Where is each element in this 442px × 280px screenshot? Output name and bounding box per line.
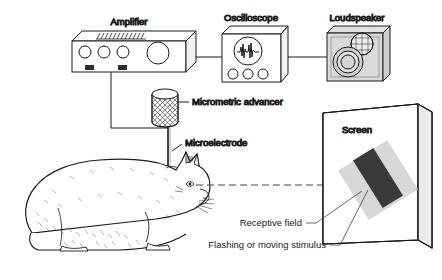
amplifier-knob-2[interactable]	[98, 46, 110, 58]
amplifier-jack-2[interactable]	[118, 65, 127, 70]
screen-label: Screen	[342, 124, 372, 135]
microelectrode	[168, 126, 170, 172]
oscilloscope-device	[222, 26, 288, 82]
microelectrode-leader	[172, 144, 182, 151]
oscilloscope-label: Oscilloscope	[224, 12, 278, 23]
cat-illustration	[26, 152, 214, 251]
amplifier-knob-1[interactable]	[79, 46, 91, 58]
figure-canvas: Amplifier Oscilloscope	[0, 0, 442, 280]
loudspeaker-woofer	[333, 47, 363, 77]
oscilloscope-knob-2[interactable]	[243, 69, 253, 79]
setup-diagram: Amplifier Oscilloscope	[0, 0, 442, 280]
stimulus-label: Flashing or moving stimulus	[208, 239, 326, 250]
loudspeaker-label: Loudspeaker	[330, 12, 385, 23]
amplifier-device	[72, 31, 196, 72]
amplifier-label: Amplifier	[111, 16, 148, 27]
cat-eye	[186, 182, 194, 187]
receptive-field-label: Receptive field	[240, 217, 302, 228]
amplifier-jack-1[interactable]	[85, 65, 94, 70]
oscilloscope-knob-3[interactable]	[258, 69, 268, 79]
oscilloscope-knob-1[interactable]	[228, 69, 238, 79]
amplifier-knob-large[interactable]	[147, 42, 169, 64]
amplifier-knob-3[interactable]	[117, 46, 129, 58]
micrometric-advancer	[152, 89, 178, 127]
screen-panel	[323, 104, 432, 248]
microelectrode-label: Microelectrode	[185, 137, 247, 148]
loudspeaker-device	[327, 26, 390, 81]
micrometric-advancer-label: Micrometric advancer	[192, 96, 283, 107]
